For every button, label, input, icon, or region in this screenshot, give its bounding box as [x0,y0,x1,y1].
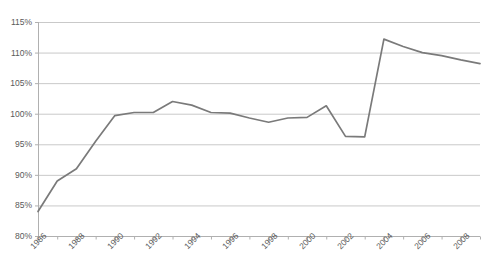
series-line-series-1 [38,39,480,211]
y-tick-label-85: 85% [2,200,32,210]
y-axis-tick-marks [35,23,38,237]
y-tick-label-90: 90% [2,170,32,180]
chart-plot-area [0,0,492,275]
y-tick-label-95: 95% [2,139,32,149]
y-tick-label-105: 105% [2,78,32,88]
y-tick-label-110: 110% [2,48,32,58]
y-tick-label-80: 80% [2,231,32,241]
data-series-line [38,39,480,211]
line-chart: 115%110%105%100%95%90%85%80% 19861988199… [0,0,492,275]
y-tick-label-100: 100% [2,109,32,119]
y-tick-label-115: 115% [2,17,32,27]
